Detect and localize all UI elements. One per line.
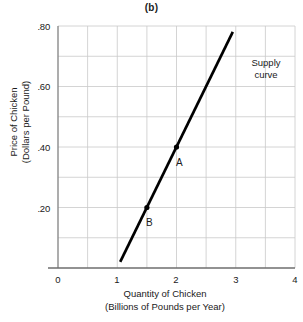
supply-curve-annotation: Supply curve [234, 57, 298, 81]
x-axis-title-line2: (Billions of Pounds per Year) [40, 301, 290, 314]
data-point-a [174, 144, 179, 149]
y-axis-title-line1: Price of Chicken [8, 42, 20, 202]
supply-curve-annotation-line1: Supply [234, 57, 298, 69]
data-point-b [144, 205, 149, 210]
supply-curve-annotation-line2: curve [234, 69, 298, 81]
x-tick-label-1: 1 [107, 275, 127, 285]
y-tick-label-060: .60 [22, 82, 50, 92]
x-tick-label-2: 2 [166, 275, 186, 285]
x-axis-title: Quantity of Chicken (Billions of Pounds … [40, 288, 290, 313]
x-axis-title-line1: Quantity of Chicken [40, 288, 290, 301]
y-tick-label-080: .80 [22, 22, 50, 32]
y-tick-label-020: .20 [22, 204, 50, 214]
x-tick-label-3: 3 [226, 275, 246, 285]
x-tick-label-4: 4 [285, 275, 303, 285]
supply-curve-figure: (b) Price of Chicken (Dollars per Pound)… [0, 0, 303, 322]
point-a-label: A [176, 158, 183, 168]
y-tick-label-040: .40 [22, 143, 50, 153]
panel-title: (b) [0, 2, 303, 13]
y-axis-title-line2: (Dollars per Pound) [20, 42, 32, 202]
y-axis-title: Price of Chicken (Dollars per Pound) [8, 42, 32, 202]
point-b-label: B [146, 218, 153, 228]
x-tick-label-0: 0 [48, 275, 68, 285]
